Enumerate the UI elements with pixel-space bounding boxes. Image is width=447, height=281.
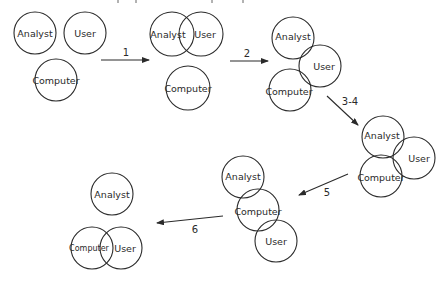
computer-label: Computer [164,83,211,94]
transition-5: 5 [299,174,348,198]
analyst-label: Analyst [275,31,311,42]
transition-3-4: 3-4 [327,96,358,126]
user-label: User [194,29,216,40]
stage-1: Analyst User Computer [150,12,223,110]
computer-label: Computer [234,206,281,217]
transition-6: 6 [157,216,223,235]
transition-6-label: 6 [192,224,198,235]
transition-1-label: 1 [123,47,129,58]
stage-3-4: Analyst User Computer [357,116,435,197]
computer-label: Computer [265,86,312,97]
analyst-label: Analyst [225,171,261,182]
stage-5: Analyst Computer User [222,156,297,262]
transition-1: 1 [101,47,149,61]
cropped-caption-fragments [118,0,243,3]
arrow-6 [157,216,223,223]
transition-2: 2 [230,48,268,62]
analyst-label: Analyst [150,29,186,40]
user-label: User [313,61,335,72]
stage-2: Analyst User Computer [265,17,341,111]
computer-label: Computer [357,172,404,183]
computer-label: Computer [69,244,109,253]
analyst-label: Analyst [364,130,400,141]
user-label: User [408,153,430,164]
user-label: User [114,243,136,254]
analyst-label: Analyst [94,189,130,200]
transition-3-4-label: 3-4 [342,96,358,107]
stage-6: Analyst Computer User [69,173,142,269]
analyst-label: Analyst [17,28,53,39]
transition-5-label: 5 [324,187,330,198]
role-evolution-diagram: Analyst User Computer 1 Analyst User Com… [0,0,447,281]
transition-2-label: 2 [244,48,250,59]
user-label: User [265,236,287,247]
computer-label: Computer [32,75,79,86]
stage-0: Analyst User Computer [14,12,106,101]
user-label: User [74,28,96,39]
